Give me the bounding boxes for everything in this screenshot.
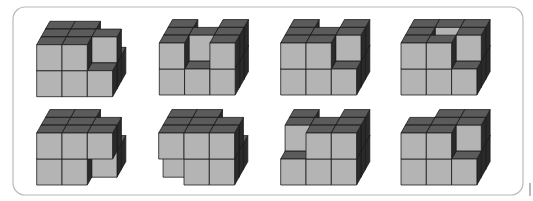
cube-front-face [401,159,426,185]
cube-top-face [219,20,249,28]
cube-top-face [435,20,465,28]
cube-top-face [62,125,92,133]
cube-top-face [41,29,71,37]
cube-top-face [290,110,320,118]
cube-top-face [310,117,340,125]
cube-front-face [210,69,235,95]
cube-figure-1 [37,21,126,96]
cube-front-face [452,69,477,95]
cube-front-face [426,43,451,69]
cube-top-face [159,125,189,133]
cube-top-face [66,117,96,125]
cube-front-face [306,159,331,185]
cube-top-face [435,110,465,118]
cube-figure-8 [401,110,490,185]
cube-front-face [401,43,426,69]
cube-top-face [189,27,219,35]
cube-top-face [460,110,490,118]
cube-top-face [87,63,117,71]
cube-top-face [210,35,240,43]
cube-top-face [306,125,336,133]
cube-front-face [456,125,481,151]
cube-top-face [281,35,311,43]
cube-top-face [331,125,361,133]
cube-front-face [185,69,210,95]
cube-top-face [41,117,71,125]
cube-top-face [214,117,244,125]
cube-top-face [37,37,67,45]
cube-top-face [66,29,96,37]
cube-top-face [37,125,67,133]
cube-front-face [331,133,356,159]
cube-top-face [331,61,361,69]
cube-front-face [62,71,87,97]
cube-top-face [290,20,320,28]
cube-front-face [426,159,451,185]
cube-top-face [405,27,435,35]
cube-front-face [401,69,426,95]
cube-front-face [210,43,235,69]
cube-top-face [188,117,218,125]
cube-top-face [46,110,76,118]
cube-top-face [460,20,490,28]
cube-top-face [164,27,194,35]
cube-front-face [159,43,184,69]
cube-top-face [340,20,370,28]
cube-front-face [331,159,356,185]
cube-top-face [340,110,370,118]
cube-front-face [452,159,477,185]
cube-top-face [426,125,456,133]
cube-top-face [168,110,198,118]
cube-front-face [184,159,209,185]
cube-front-face [62,45,87,71]
cube-top-face [456,117,486,125]
puzzle-panel [0,0,533,201]
cube-front-face [37,45,62,71]
cube-front-face [209,159,234,185]
cube-figure-2 [159,20,248,95]
cube-top-face [410,20,440,28]
cube-front-face [281,69,306,95]
cube-top-face [92,29,122,37]
cube-front-face [209,133,234,159]
cube-top-face [184,125,214,133]
cube-top-face [405,117,435,125]
cube-front-face [87,133,112,159]
cube-top-face [159,35,189,43]
cube-top-face [87,125,117,133]
cube-top-face [214,27,244,35]
cube-top-face [336,117,366,125]
cube-front-face [62,133,87,159]
cube-front-face [426,69,451,95]
cube-front-face [37,159,62,185]
cube-front-face [62,159,87,185]
cube-top-face [401,35,431,43]
cube-front-face [426,133,451,159]
cube-top-face [310,27,340,35]
cube-figure-4 [401,20,490,95]
cube-front-face [92,37,117,63]
cube-top-face [426,35,456,43]
cube-front-face [37,133,62,159]
cube-top-face [168,20,198,28]
cube-top-face [46,21,76,29]
cube-top-face [92,117,122,125]
cube-front-face [306,69,331,95]
cube-front-face [159,69,184,95]
cube-figure-6 [159,110,248,185]
cube-front-face [281,43,306,69]
cube-figure-7 [281,110,370,185]
cube-front-face [184,133,209,159]
cube-top-face [193,110,223,118]
cube-front-face [306,43,331,69]
cube-top-face [452,151,482,159]
cube-front-face [159,133,184,159]
cube-top-face [336,27,366,35]
cube-top-face [306,35,336,43]
cube-front-face [401,133,426,159]
cube-front-face [331,69,356,95]
cube-top-face [431,117,461,125]
cube-front-face [306,133,331,159]
cube-figure-3 [281,20,370,95]
cube-front-face [281,159,306,185]
